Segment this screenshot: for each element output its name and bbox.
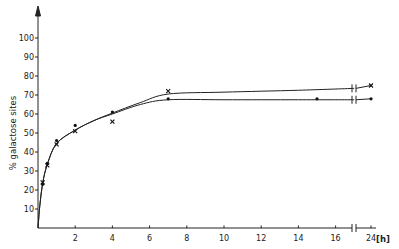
- dot-marker-icon: [369, 97, 372, 100]
- fit-curve-dot-series-continuation: [356, 99, 371, 100]
- y-axis-ticks: 102030405060708090100: [19, 34, 38, 214]
- dot-marker-icon: [55, 139, 58, 142]
- data-markers: [41, 84, 373, 186]
- y-tick-label: 80: [24, 72, 34, 81]
- x-tick-label: 16: [331, 234, 341, 243]
- dot-marker-icon: [167, 97, 170, 100]
- dot-marker-icon: [41, 183, 44, 186]
- y-axis-arrow-icon: [36, 6, 41, 16]
- x-tick-label: 14: [293, 234, 303, 243]
- y-tick-label: 50: [24, 129, 34, 138]
- fit-curve-x-series: [38, 88, 354, 228]
- y-tick-label: 90: [24, 53, 34, 62]
- x-tick-label: 4: [110, 234, 115, 243]
- x-tick-label: 6: [147, 234, 152, 243]
- y-tick-label: 100: [19, 34, 34, 43]
- dot-marker-icon: [74, 124, 77, 127]
- fit-curve-x-series-continuation: [356, 86, 371, 89]
- x-tick-label: 10: [219, 234, 229, 243]
- fit-curve-dot-series: [38, 99, 354, 228]
- y-tick-label: 20: [24, 186, 34, 195]
- galactose-sites-chart: 102030405060708090100 24681012141624 % g…: [0, 0, 399, 249]
- x-tick-label: 12: [256, 234, 266, 243]
- y-tick-label: 70: [24, 91, 34, 100]
- fitted-curves: [38, 84, 371, 228]
- x-tick-label: 24: [366, 234, 376, 243]
- x-marker-icon: [166, 89, 170, 93]
- x-tick-label: 2: [73, 234, 78, 243]
- y-tick-label: 30: [24, 167, 34, 176]
- dot-marker-icon: [315, 97, 318, 100]
- y-tick-label: 40: [24, 148, 34, 157]
- y-tick-label: 10: [24, 205, 34, 214]
- y-tick-label: 60: [24, 110, 34, 119]
- dot-marker-icon: [111, 111, 114, 114]
- axes: [36, 6, 377, 232]
- y-axis-label: % galactose sites: [8, 95, 18, 170]
- x-axis-unit-label: [h]: [376, 234, 390, 244]
- dot-marker-icon: [46, 162, 49, 165]
- x-marker-icon: [110, 120, 114, 124]
- x-tick-label: 8: [184, 234, 189, 243]
